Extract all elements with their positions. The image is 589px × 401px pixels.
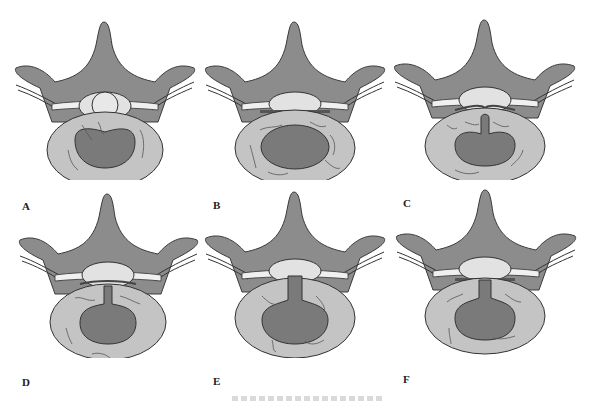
vertebra-b xyxy=(205,22,384,180)
vertebra-a-illustration xyxy=(0,0,200,180)
spinal-canal xyxy=(459,257,511,281)
panel-label-f: F xyxy=(403,373,410,385)
vertebra-d xyxy=(19,194,197,358)
vertebra-c xyxy=(394,20,574,180)
vertebra-b-illustration xyxy=(190,0,390,180)
vertebra-c-illustration xyxy=(385,0,585,180)
panel-c xyxy=(385,0,585,180)
panel-b xyxy=(190,0,390,180)
panel-label-d: D xyxy=(22,376,30,388)
panel-f xyxy=(385,178,585,358)
nucleus-pulposus xyxy=(261,125,329,169)
panel-a xyxy=(0,0,200,180)
panel-d xyxy=(0,178,200,358)
vertebra-e xyxy=(205,192,384,358)
vertebra-d-illustration xyxy=(0,178,200,358)
panel-label-e: E xyxy=(213,375,220,387)
vertebra-a xyxy=(15,22,194,180)
vertebra-e-illustration xyxy=(190,178,390,358)
figure-caption-clipped xyxy=(232,396,382,401)
vertebra-diagram-figure: A B xyxy=(0,0,589,401)
vertebra-f-illustration xyxy=(385,178,585,358)
vertebra-f xyxy=(396,190,575,354)
panel-e xyxy=(190,178,390,358)
